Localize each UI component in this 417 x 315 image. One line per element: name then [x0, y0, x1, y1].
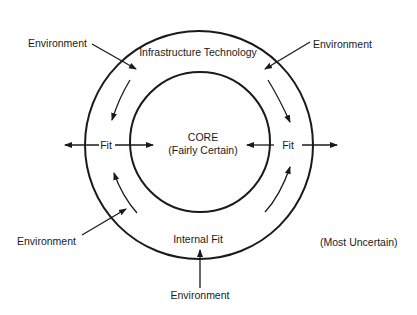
most-uncertain-note: (Most Uncertain) [320, 236, 398, 248]
env-arrow-bottom-left [82, 209, 126, 235]
core-title: CORE [188, 131, 218, 143]
infrastructure-technology-label: Infrastructure Technology [139, 46, 257, 58]
env-arrow-top-left [92, 44, 136, 69]
flow-arrow-bottom-left [114, 173, 137, 213]
environment-label-bottom: Environment [171, 289, 230, 301]
environment-label-bottom-left: Environment [17, 235, 76, 247]
flow-arrow-top-right [268, 80, 290, 122]
internal-fit-label: Internal Fit [173, 233, 223, 245]
core-subtitle: (Fairly Certain) [168, 144, 237, 156]
environment-label-top-right: Environment [313, 38, 372, 50]
env-arrow-top-right [265, 42, 310, 69]
fit-label-left: Fit [100, 139, 112, 151]
fit-label-right: Fit [282, 139, 294, 151]
flow-arrow-top-left [112, 80, 130, 120]
flow-arrow-bottom-right [265, 167, 290, 212]
environment-label-top-left: Environment [28, 37, 87, 49]
